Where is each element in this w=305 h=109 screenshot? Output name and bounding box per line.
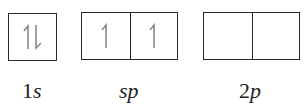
- spin-up-arrow-icon: [23, 24, 32, 50]
- electron-pair: [23, 24, 42, 50]
- orbital-box-sp-2: [130, 13, 178, 59]
- orbital-box-1s: [9, 14, 56, 60]
- orbital-group-1s: [8, 13, 57, 61]
- orbital-box-sp-1: [82, 13, 130, 59]
- label-1s: 1s: [22, 78, 42, 104]
- orbital-group-sp: [81, 12, 178, 60]
- orbital-box-2p-2: [252, 13, 300, 59]
- spin-down-arrow-icon: [33, 24, 42, 50]
- label-1s-number: 1: [22, 78, 33, 103]
- spin-up-arrow-icon: [149, 23, 158, 49]
- label-1s-letter: s: [33, 78, 42, 103]
- spin-up-arrow-icon: [101, 23, 110, 49]
- label-2p-number: 2: [239, 78, 250, 103]
- label-sp-letter: sp: [119, 78, 139, 103]
- label-sp: sp: [119, 78, 139, 104]
- label-2p: 2p: [239, 78, 261, 104]
- label-2p-letter: p: [250, 78, 261, 103]
- orbital-group-2p: [203, 12, 300, 60]
- orbital-box-2p-1: [204, 13, 252, 59]
